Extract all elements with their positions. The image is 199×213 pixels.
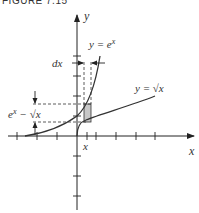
x-marker-label: x (82, 140, 88, 152)
curve-label-exp: y = ex (88, 37, 116, 50)
x-axis-label: x (188, 144, 195, 158)
height-label: ex− √x (8, 107, 41, 120)
y-axis-label: y (83, 9, 90, 23)
curve-label-sqrt: y = √x (134, 82, 164, 94)
figure-diagram: y x y = ex y = √x dx ex− √x x (0, 0, 199, 213)
dx-label: dx (52, 57, 63, 69)
x-axis (8, 132, 194, 140)
guide-lines (33, 62, 91, 122)
curve-exp (25, 56, 100, 136)
